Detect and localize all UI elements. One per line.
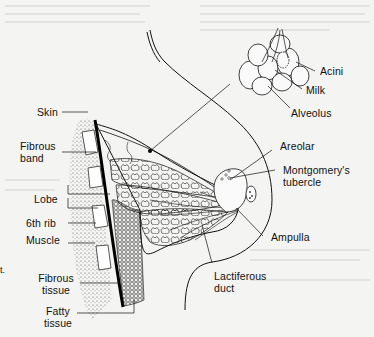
nipple <box>246 186 256 202</box>
label-lactiferous-line2: duct <box>214 282 234 294</box>
label-fibrous-tissue-line2: tissue <box>34 284 78 296</box>
label-fibrous-tissue-line1: Fibrous <box>34 272 78 284</box>
breast-anatomy-diagram: Acini Milk Alveolus Skin Fibrous band Lo… <box>0 0 374 337</box>
label-areolar: Areolar <box>280 140 315 152</box>
label-muscle: Muscle <box>26 234 60 246</box>
label-montgomery-line1: Montgomery's <box>283 164 350 176</box>
label-lactiferous-line1: Lactiferous <box>214 270 266 282</box>
label-alveolus: Alveolus <box>291 107 332 119</box>
label-montgomery-line2: tubercle <box>283 176 321 188</box>
fatty-tissue-mesh <box>112 200 144 306</box>
label-fatty-tissue-line1: Fatty <box>38 305 78 317</box>
label-fatty-tissue-line2: tissue <box>38 317 78 329</box>
label-6th-rib: 6th rib <box>26 217 56 229</box>
label-fibrous-band-line2: band <box>20 152 44 164</box>
label-lobe: Lobe <box>34 193 58 205</box>
label-skin: Skin <box>37 106 58 118</box>
label-ampulla: Ampulla <box>271 231 310 243</box>
label-milk: Milk <box>306 84 325 96</box>
label-fibrous-band-line1: Fibrous <box>20 140 56 152</box>
body-outline-lower <box>185 262 212 310</box>
label-acini: Acini <box>320 65 343 77</box>
stray-text: t. <box>0 264 5 276</box>
lobule-inset <box>239 35 309 95</box>
